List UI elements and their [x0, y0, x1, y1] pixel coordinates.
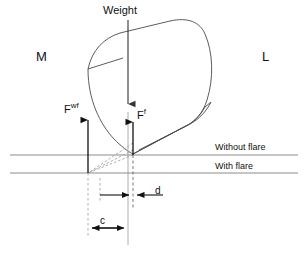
force-label-with-flare-superscript: f: [144, 107, 146, 116]
reference-label-without-flare: Without flare: [215, 143, 266, 152]
dimension-label-c: c: [100, 216, 105, 226]
weight-label: Weight: [103, 5, 137, 16]
diagram-canvas: [0, 0, 306, 254]
tooth-outline: [88, 20, 212, 154]
force-label-with-flare-base: F: [137, 109, 144, 121]
force-label-with-flare: Ff: [137, 110, 146, 121]
tooth-contour-line: [88, 58, 123, 69]
dimension-label-d: d: [155, 186, 161, 196]
force-diagram: Weight M L Fwf Ff Without flare With fla…: [0, 0, 306, 254]
force-label-without-flare: Fwf: [64, 104, 79, 115]
force-label-without-flare-superscript: wf: [71, 101, 79, 110]
construction-lines: [88, 143, 133, 173]
reference-label-with-flare: With flare: [215, 162, 253, 171]
force-label-without-flare-base: F: [64, 103, 71, 115]
side-label-lingual: L: [262, 50, 269, 63]
side-label-mesial: M: [36, 50, 47, 63]
dimension-extension-lines: [88, 155, 133, 238]
